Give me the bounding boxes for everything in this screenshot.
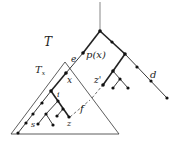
label-s: s <box>31 120 35 129</box>
left-branch <box>18 31 100 133</box>
label-e: e <box>71 54 76 64</box>
tree-diagram: T Tx p(x) e x z' d i f s z <box>0 0 182 143</box>
label-d: d <box>150 69 156 80</box>
label-i: i <box>57 90 60 99</box>
label-f: f <box>79 103 86 114</box>
label-px: p(x) <box>86 49 106 60</box>
label-Tx: Tx <box>35 64 46 76</box>
label-zprime: z' <box>93 75 101 85</box>
label-T: T <box>44 35 53 49</box>
label-x: x <box>67 75 72 85</box>
right-branch <box>100 31 167 98</box>
label-z: z <box>66 119 72 128</box>
tree-nodes <box>16 29 168 134</box>
